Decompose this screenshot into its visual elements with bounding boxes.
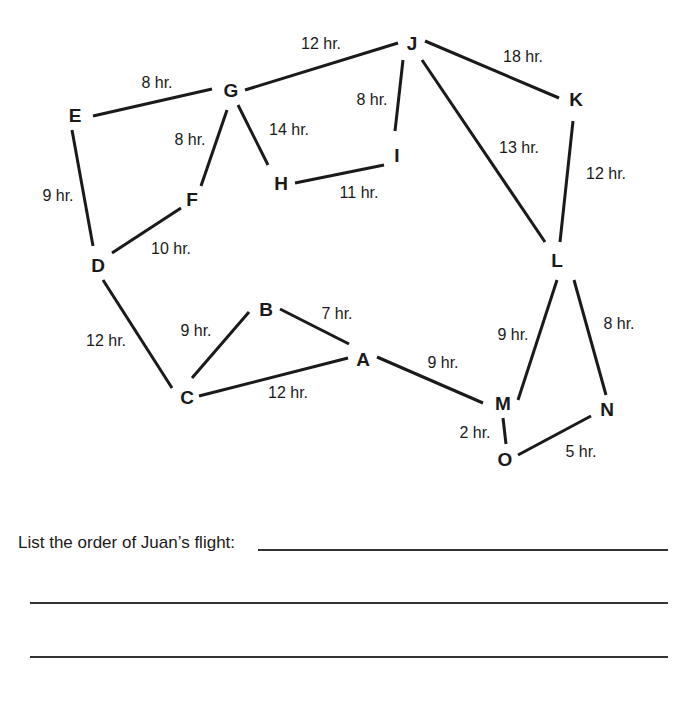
- edge-e-g: [93, 89, 212, 116]
- edge-label-l-n: 8 hr.: [603, 315, 634, 332]
- edge-label-g-h: 14 hr.: [269, 121, 309, 138]
- edge-label-e-d: 9 hr.: [42, 187, 73, 204]
- route-hour-labels: 8 hr.12 hr.8 hr.14 hr.11 hr.8 hr.18 hr.1…: [42, 35, 634, 460]
- node-a: A: [356, 349, 370, 370]
- answer-line-1[interactable]: [258, 549, 668, 551]
- node-e: E: [69, 105, 82, 126]
- node-h: H: [274, 173, 288, 194]
- node-i: I: [394, 145, 399, 166]
- edge-k-l: [560, 121, 573, 242]
- edge-label-c-b: 9 hr.: [180, 322, 211, 339]
- edge-e-d: [72, 130, 93, 246]
- edge-j-i: [395, 60, 403, 131]
- edge-l-n: [574, 280, 606, 395]
- node-c: C: [180, 387, 194, 408]
- flight-route-graph: 8 hr.12 hr.8 hr.14 hr.11 hr.8 hr.18 hr.1…: [0, 0, 683, 500]
- flight-order-prompt: List the order of Juan’s flight:: [18, 533, 235, 553]
- node-k: K: [569, 89, 583, 110]
- node-j: J: [407, 33, 418, 54]
- edge-label-k-l: 12 hr.: [586, 165, 626, 182]
- edge-label-a-m: 9 hr.: [427, 354, 458, 371]
- edge-label-j-k: 18 hr.: [503, 48, 543, 65]
- edge-label-l-m: 9 hr.: [497, 326, 528, 343]
- node-o: O: [498, 449, 513, 470]
- node-n: N: [600, 399, 614, 420]
- edge-label-h-i: 11 hr.: [340, 184, 379, 201]
- answer-line-2[interactable]: [30, 602, 668, 604]
- node-m: M: [495, 393, 511, 414]
- edge-label-m-o: 2 hr.: [459, 424, 490, 441]
- edge-label-d-c: 12 hr.: [86, 332, 126, 349]
- edge-label-j-l: 13 hr.: [499, 139, 539, 156]
- edge-m-o: [503, 418, 506, 444]
- edge-label-c-a: 12 hr.: [268, 384, 308, 401]
- edge-label-g-j: 12 hr.: [301, 35, 341, 52]
- edge-label-j-i: 8 hr.: [356, 91, 387, 108]
- node-d: D: [91, 255, 105, 276]
- answer-line-3[interactable]: [30, 656, 668, 658]
- edge-label-g-f: 8 hr.: [174, 131, 205, 148]
- edge-label-e-g: 8 hr.: [141, 74, 172, 91]
- edge-label-o-n: 5 hr.: [565, 443, 596, 460]
- edge-h-i: [295, 165, 384, 183]
- node-g: G: [224, 80, 239, 101]
- edge-label-b-a: 7 hr.: [321, 305, 352, 322]
- edge-label-d-f: 10 hr.: [151, 240, 191, 257]
- edge-g-f: [201, 110, 227, 186]
- node-b: B: [259, 299, 273, 320]
- edge-g-h: [238, 105, 268, 165]
- node-l: L: [551, 250, 563, 271]
- node-f: F: [186, 189, 198, 210]
